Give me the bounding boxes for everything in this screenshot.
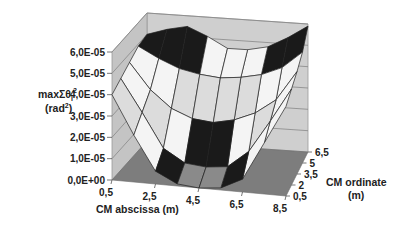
y-tick-label: 6,5: [315, 147, 329, 158]
z-tick-label: 5,0E-05: [70, 68, 105, 79]
z-axis-label-line2: (rad2): [45, 102, 72, 114]
x-axis-label: CM abscissa (m): [96, 203, 179, 215]
x-tick-label: 6,5: [230, 199, 244, 210]
x-tick: [285, 196, 286, 200]
z-tick-label: 0,0E+00: [67, 175, 105, 186]
x-tick-label: 2,5: [143, 191, 157, 202]
y-tick-label: 0,5: [293, 191, 307, 202]
z-tick-label: 3,0E-05: [70, 111, 105, 122]
x-tick: [198, 188, 199, 192]
y-tick-label: 3,5: [304, 169, 318, 180]
x-tick-label: 4,5: [186, 195, 200, 206]
x-tick-label: 8,5: [273, 203, 287, 214]
y-axis-label-line2: (m): [348, 189, 364, 201]
x-tick: [155, 184, 156, 188]
x-tick-label: 0,5: [99, 187, 113, 198]
y-tick-label: 2: [299, 180, 305, 191]
x-tick: [242, 192, 243, 196]
z-tick-label: 2,0E-05: [70, 132, 105, 143]
x-tick: [111, 180, 112, 184]
y-axis-label-line1: CM ordinate: [326, 176, 387, 188]
y-tick-label: 5: [310, 158, 316, 169]
z-tick-label: 1,0E-05: [70, 153, 105, 164]
surface-chart: 0,0E+001,0E-052,0E-053,0E-054,0E-055,0E-…: [0, 0, 406, 229]
z-tick-label: 6,0E-05: [70, 47, 105, 58]
